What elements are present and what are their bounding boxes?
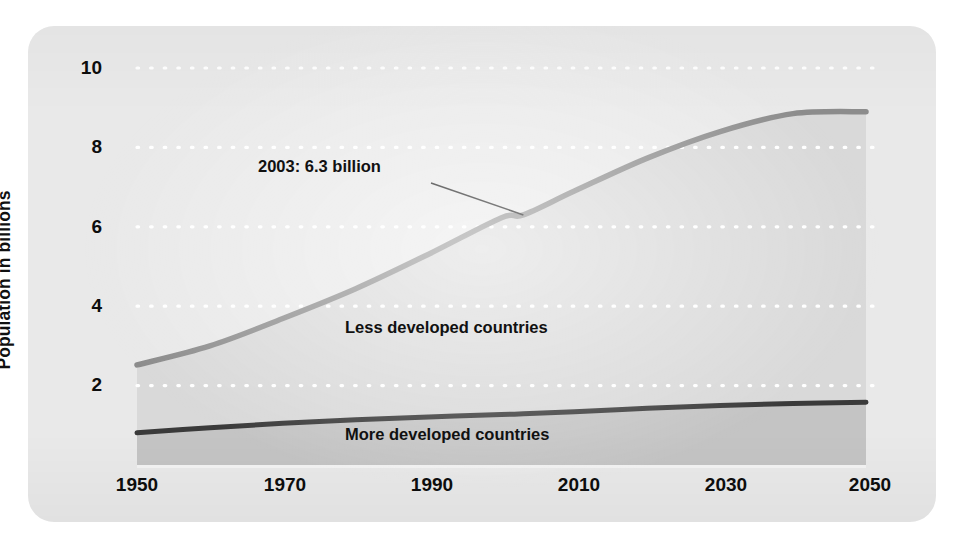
x-tick-2050: 2050 <box>825 474 915 496</box>
series-label-more-developed: More developed countries <box>345 425 549 444</box>
chart-canvas <box>0 0 964 551</box>
series-label-less-developed: Less developed countries <box>345 318 548 337</box>
x-tick-1950: 1950 <box>92 474 182 496</box>
y-axis-label: Population in billions <box>0 150 15 410</box>
population-chart-figure: Population in billions 10 8 6 4 2 1950 1… <box>0 0 964 551</box>
y-tick-6: 6 <box>62 216 102 238</box>
x-tick-2030: 2030 <box>681 474 771 496</box>
y-tick-4: 4 <box>62 295 102 317</box>
x-tick-2010: 2010 <box>534 474 624 496</box>
y-tick-2: 2 <box>62 374 102 396</box>
annotation-2003: 2003: 6.3 billion <box>258 157 381 176</box>
annotation-leader-line <box>431 183 523 215</box>
y-tick-8: 8 <box>62 136 102 158</box>
x-tick-1990: 1990 <box>387 474 477 496</box>
y-tick-10: 10 <box>62 57 102 79</box>
x-tick-1970: 1970 <box>240 474 330 496</box>
